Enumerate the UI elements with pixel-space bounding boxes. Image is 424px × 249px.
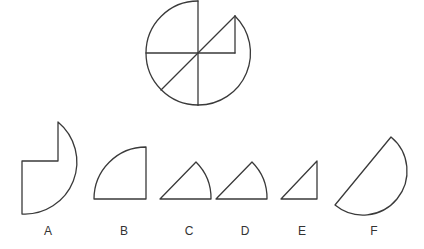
main-circle-right-arc [198,16,250,105]
main-figure [146,1,250,105]
option-e-label: E [298,224,306,238]
option-b-label: B [120,224,128,238]
option-c-label: C [185,224,194,238]
option-e-shape[interactable] [281,161,317,199]
option-f-shape[interactable] [335,137,407,215]
option-d-label: D [241,224,250,238]
option-d-shape[interactable] [216,162,267,199]
option-a-label: A [44,224,52,238]
puzzle-canvas: A B C D E F [0,0,424,249]
option-b-shape[interactable] [94,147,146,199]
option-c-shape[interactable] [160,162,211,199]
option-a-shape[interactable] [22,122,77,214]
option-f-label: F [370,224,377,238]
